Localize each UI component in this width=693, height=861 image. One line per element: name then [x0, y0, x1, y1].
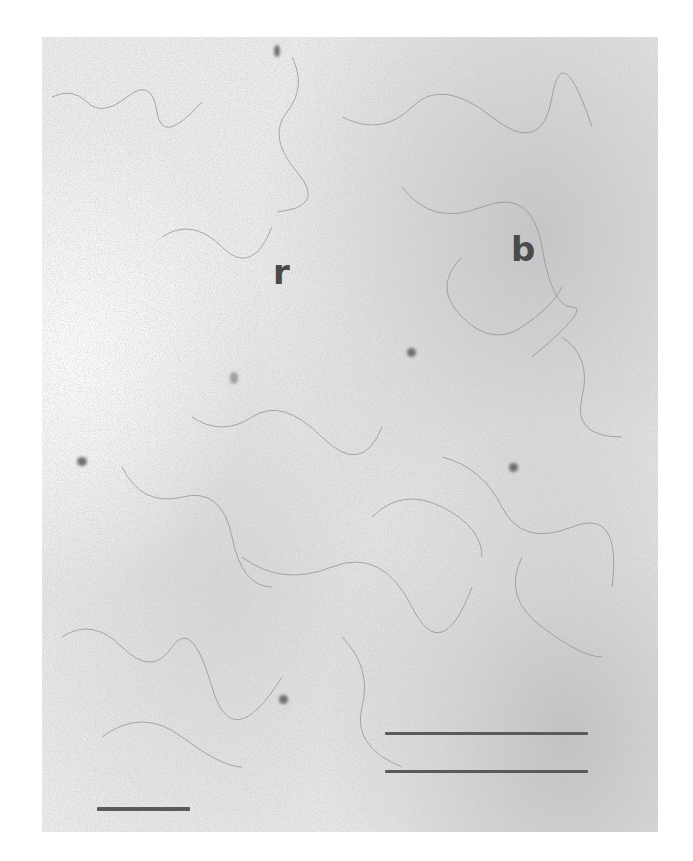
dark-spot	[407, 348, 416, 357]
right-scale-bar-top	[385, 732, 588, 735]
right-scale-bar-bottom	[385, 770, 588, 773]
label-r: r	[273, 255, 290, 289]
dark-spot	[77, 457, 87, 466]
electron-micrograph: r b	[42, 37, 658, 832]
label-b: b	[511, 232, 535, 266]
dark-spot	[230, 372, 238, 384]
micrograph-texture	[42, 37, 658, 832]
dark-spot	[279, 695, 288, 704]
dark-spot	[274, 45, 280, 57]
left-scale-bar	[97, 807, 190, 811]
dark-spot	[509, 463, 518, 472]
